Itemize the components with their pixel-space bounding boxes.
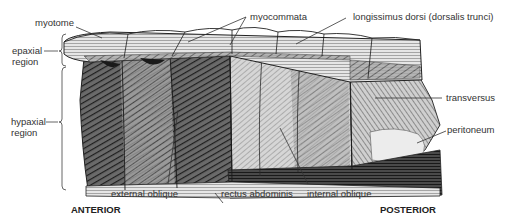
region-brackets xyxy=(44,34,66,190)
hypaxial-bracket xyxy=(59,67,66,190)
label-hypaxial-line2: region xyxy=(11,127,37,138)
label-epaxial-line1: epaxial xyxy=(12,45,42,56)
label-peritoneum: peritoneum xyxy=(447,124,495,135)
label-internal-oblique: internal oblique xyxy=(307,188,371,199)
label-myocommata: myocommata xyxy=(250,11,307,22)
label-posterior: POSTERIOR xyxy=(380,204,436,215)
label-rectus-abdominis: rectus abdominis xyxy=(221,188,293,199)
label-epaxial-line2: region xyxy=(12,56,38,67)
label-external-oblique: external oblique xyxy=(111,188,178,199)
label-transversus: transversus xyxy=(446,92,495,103)
label-longissimus-dorsi: longissimus dorsi (dorsalis trunci) xyxy=(353,11,493,22)
label-myotome: myotome xyxy=(35,17,74,28)
label-hypaxial-line1: hypaxial xyxy=(11,116,46,127)
label-anterior: ANTERIOR xyxy=(71,204,121,215)
